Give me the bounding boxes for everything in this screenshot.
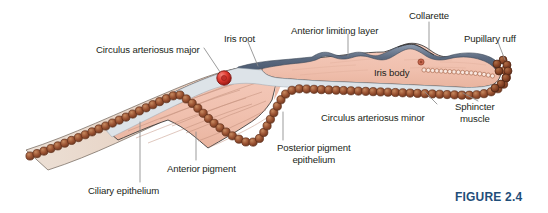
label-circulus-arteriosus-major: Circulus arteriosus major	[96, 44, 200, 56]
label-anterior-limiting-layer: Anterior limiting layer	[291, 25, 378, 37]
label-circulus-arteriosus-minor: Circulus arteriosus minor	[321, 112, 425, 124]
label-pupillary-ruff: Pupillary ruff	[464, 33, 516, 45]
leader-iris-root	[248, 42, 258, 66]
label-collarette: Collarette	[409, 10, 449, 22]
circulus-arteriosus-minor	[418, 59, 424, 65]
figure-container: Circulus arteriosus major Iris root Ante…	[0, 0, 548, 213]
label-anterior-pigment: Anterior pigment	[167, 163, 236, 175]
label-ciliary-epithelium: Ciliary epithelium	[88, 185, 159, 197]
label-sphincter-muscle: Sphincter muscle	[455, 101, 495, 124]
figure-caption: FIGURE 2.4	[455, 190, 522, 204]
circulus-arteriosus-major	[217, 71, 231, 85]
leader-circulus-arteriosus-major	[204, 48, 220, 72]
label-iris-root: Iris root	[224, 33, 255, 45]
label-posterior-pigment-epithelium: Posterior pigment epithelium	[277, 142, 351, 165]
label-iris-body: Iris body	[374, 67, 409, 79]
